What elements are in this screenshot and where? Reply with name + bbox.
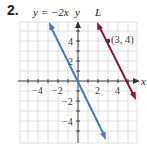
x-axis-label: x	[140, 75, 146, 87]
svg-text:−2: −2	[52, 85, 63, 96]
svg-text:4: 4	[115, 85, 120, 96]
svg-text:−2: −2	[62, 96, 73, 107]
svg-text:2: 2	[95, 85, 100, 96]
point-3-4	[106, 39, 111, 44]
line-L-label: L	[94, 6, 101, 18]
graph: −4 −2 2 4 4 2 −2 −4 (3, 4) y = −2x y L x	[0, 0, 147, 149]
svg-text:4: 4	[68, 36, 73, 47]
blue-line-label: y = −2x	[32, 6, 69, 18]
svg-text:−4: −4	[62, 116, 73, 127]
point-label: (3, 4)	[111, 34, 134, 46]
y-axis-label: y	[74, 6, 80, 18]
svg-text:−4: −4	[32, 85, 43, 96]
